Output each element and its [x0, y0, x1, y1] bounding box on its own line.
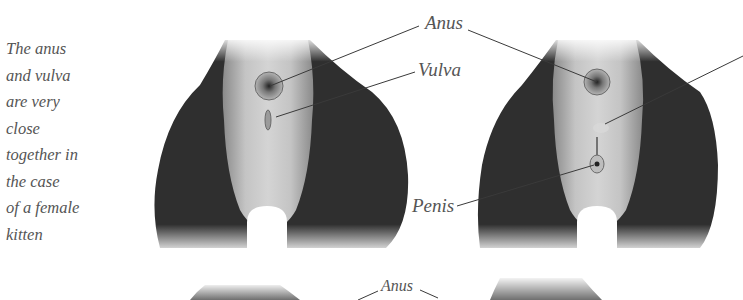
female-vulva-marker	[265, 110, 271, 130]
female-anus-label: Anus	[425, 13, 463, 32]
female-anus-marker	[255, 72, 283, 100]
bottom-anus-label: Anus	[381, 278, 413, 294]
male-penis-label: Penis	[412, 196, 454, 215]
male-kitten-rear-view	[457, 30, 743, 250]
bottom-anus-leader-left	[358, 291, 378, 300]
male-scrotum-marker	[593, 123, 609, 133]
female-vulva-label: Vulva	[418, 60, 461, 79]
kitten-sexing-illustration	[0, 0, 743, 300]
bottom-anus-leader-right	[420, 290, 438, 298]
female-kitten-rear-view	[150, 26, 419, 250]
